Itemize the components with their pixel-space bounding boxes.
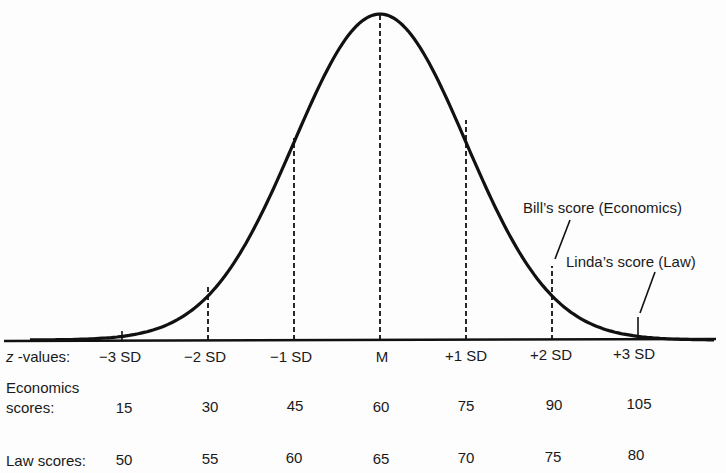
law-score: 80 [628, 446, 645, 463]
economics-score: 60 [373, 398, 390, 415]
economics-label-line1: Economics [6, 379, 79, 396]
law-score: 75 [545, 448, 562, 465]
z-value: +1 SD [445, 347, 487, 364]
bill-annotation: Bill’s score (Economics) [523, 199, 682, 216]
z-value: −2 SD [184, 348, 226, 365]
z-value: −3 SD [99, 348, 141, 365]
normal-curve-diagram [0, 0, 726, 473]
economics-score: 15 [116, 399, 133, 416]
law-score: 65 [373, 450, 390, 467]
law-score: 70 [458, 449, 475, 466]
bell-curve [30, 14, 714, 340]
x-axis-baseline [4, 339, 716, 341]
economics-label-line2: scores: [6, 399, 54, 416]
economics-score: 30 [202, 398, 219, 415]
z-value: +3 SD [613, 345, 655, 362]
linda-pointer [640, 272, 655, 313]
law-score: 60 [286, 449, 303, 466]
z-values-row-label: z -values: [6, 348, 70, 365]
economics-score: 105 [626, 395, 651, 412]
linda-annotation: Linda’s score (Law) [566, 253, 696, 270]
z-values-label: -values: [18, 348, 71, 365]
z-value: −1 SD [270, 348, 312, 365]
economics-score: 45 [287, 397, 304, 414]
z-italic: z [6, 348, 14, 365]
law-score: 50 [116, 451, 133, 468]
law-scores-label: Law scores: [6, 452, 86, 469]
law-score: 55 [202, 450, 219, 467]
z-value: +2 SD [530, 346, 572, 363]
economics-score: 90 [546, 396, 563, 413]
z-value: M [376, 348, 389, 365]
economics-score: 75 [458, 397, 475, 414]
